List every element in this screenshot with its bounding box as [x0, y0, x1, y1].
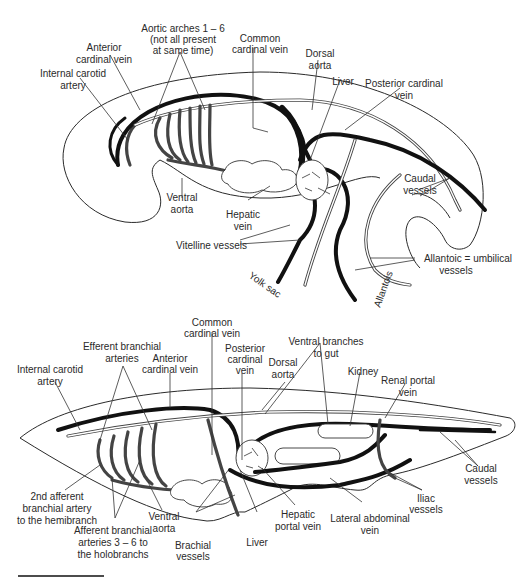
- label-fish-common-cardinal-2: cardinal vein: [184, 328, 240, 339]
- label-internal-carotid: Internal carotid: [40, 68, 106, 79]
- label-internal-carotid-2: artery: [60, 80, 86, 91]
- label-fish-caudal: Caudal: [465, 463, 497, 474]
- fish-dorsal-aorta: [68, 412, 500, 436]
- label-hepatic-portal-2: portal vein: [275, 521, 321, 532]
- embryo-tail-outline: [412, 194, 450, 218]
- label-yolk-sac: Yolk sac: [247, 270, 284, 300]
- label-fish-anterior-cardinal-2: cardinal vein: [142, 364, 198, 375]
- label-common-cardinal: Common: [240, 33, 281, 44]
- label-fish-liver: Liver: [246, 537, 268, 548]
- label-hepatic-portal: Hepatic: [281, 509, 315, 520]
- label-caudal-vessels-top: Caudal: [404, 173, 436, 184]
- label-fish-posterior-cardinal-3: vein: [236, 365, 254, 376]
- label-anterior-cardinal-2: cardinal vein: [76, 54, 132, 65]
- label-fish-common-cardinal: Common: [192, 317, 233, 328]
- label-dorsal-aorta-2: aorta: [309, 60, 332, 71]
- label-ventral-aorta: Ventral: [166, 192, 197, 203]
- label-ventral-aorta-2: aorta: [171, 204, 194, 215]
- label-efferent-branchial: Efferent branchial: [83, 341, 161, 352]
- embryo-diagram: Aortic arches 1 – 6 (not all present at …: [40, 23, 512, 309]
- label-renal-portal: Renal portal: [381, 375, 435, 386]
- label-kidney: Kidney: [348, 366, 379, 377]
- embryo-head-outline: [63, 148, 380, 222]
- fish-heart: [171, 480, 233, 507]
- label-common-cardinal-2: cardinal vein: [232, 44, 288, 55]
- label-fish-ventral-aorta-2: aorta: [153, 523, 176, 534]
- label-fish-anterior-cardinal: Anterior: [152, 353, 188, 364]
- label-hepatic-vein-2: vein: [234, 221, 252, 232]
- label-efferent-branchial-2: arteries: [105, 353, 138, 364]
- gill-arches: [98, 424, 166, 486]
- label-afferent-branchial: Afferent branchial: [74, 525, 152, 536]
- label-hepatic-vein: Hepatic: [226, 209, 260, 220]
- label-ventral-branches: Ventral branches: [288, 336, 363, 347]
- label-fish-posterior-cardinal: Posterior: [225, 343, 266, 354]
- label-fish-internal-carotid: Internal carotid: [17, 364, 83, 375]
- common-cardinal-vessel: [282, 108, 302, 175]
- embryo-liver: [296, 160, 328, 200]
- label-fish-caudal-2: vessels: [464, 475, 497, 486]
- fish-kidney: [318, 424, 373, 438]
- label-fish-dorsal-aorta: Dorsal: [269, 357, 298, 368]
- label-afferent-branchial-2: arteries 3 – 6 to: [78, 537, 148, 548]
- label-posterior-cardinal-2: vein: [395, 90, 413, 101]
- label-fish-dorsal-aorta-2: aorta: [272, 369, 295, 380]
- label-allantoic-vessels-2: vessels: [439, 265, 472, 276]
- label-allantois: Allantois: [372, 269, 395, 308]
- label-fish-internal-carotid-2: artery: [37, 376, 63, 387]
- circulatory-diagram: Aortic arches 1 – 6 (not all present at …: [0, 0, 531, 580]
- label-second-afferent-2: branchial artery: [23, 503, 92, 514]
- label-aortic-arches-2: (not all present: [150, 34, 216, 45]
- label-lateral-abdominal-2: vein: [361, 525, 379, 536]
- label-lateral-abdominal: Lateral abdominal: [330, 513, 410, 524]
- label-dorsal-aorta: Dorsal: [306, 48, 335, 59]
- label-fish-ventral-aorta: Ventral: [148, 511, 179, 522]
- label-posterior-cardinal: Posterior cardinal: [365, 78, 443, 89]
- label-aortic-arches-3: at same time): [153, 45, 214, 56]
- fish-diagram: Common cardinal vein Efferent branchial …: [17, 317, 515, 562]
- label-brachial-2: vessels: [176, 551, 209, 562]
- label-ventral-branches-2: to gut: [313, 348, 338, 359]
- label-iliac: Iliac: [417, 493, 435, 504]
- label-aortic-arches: Aortic arches 1 – 6: [141, 23, 225, 34]
- label-caudal-vessels-top-2: vessels: [403, 185, 436, 196]
- embryo-heart: [222, 161, 297, 193]
- label-renal-portal-2: vein: [399, 387, 417, 398]
- label-vitelline-vessels: Vitelline vessels: [176, 240, 247, 251]
- label-iliac-2: vessels: [409, 504, 442, 515]
- label-liver: Liver: [332, 76, 354, 87]
- label-afferent-branchial-3: the holobranchs: [77, 549, 148, 560]
- label-brachial: Brachial: [175, 540, 211, 551]
- label-allantoic-vessels: Allantoic = umbilical: [424, 253, 512, 264]
- label-fish-posterior-cardinal-2: cardinal: [227, 354, 262, 365]
- label-anterior-cardinal: Anterior: [86, 42, 122, 53]
- label-second-afferent: 2nd afferent: [30, 491, 83, 502]
